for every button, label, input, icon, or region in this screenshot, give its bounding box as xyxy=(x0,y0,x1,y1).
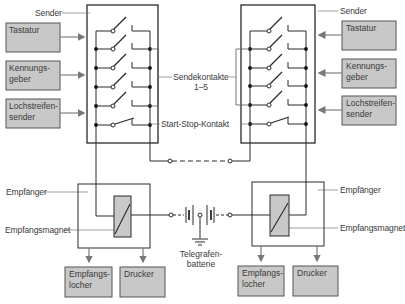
label-sender-right: Sender xyxy=(340,6,367,16)
open-switch-icon xyxy=(267,122,271,126)
input-label-lochstreifensender-left: Lochstreifen- sender xyxy=(9,101,58,123)
output-label-empfangslocher-left: Empfangs- locher xyxy=(69,269,110,291)
input-label-kennungsgeber-right: Kennungs- geber xyxy=(346,61,387,83)
start-stop-switch xyxy=(248,117,308,126)
open-switch-icon xyxy=(111,123,115,127)
output-label-drucker-right: Drucker xyxy=(297,268,327,279)
open-switch-icon xyxy=(111,29,115,33)
switch-row xyxy=(248,72,308,88)
open-switch-icon xyxy=(111,66,115,70)
label-telegrafenbatterie: Telegrafen- batterie xyxy=(178,249,224,269)
label-empfaenger-left: Empfänger xyxy=(6,187,47,197)
right-receiver xyxy=(232,182,324,246)
sender-box-left xyxy=(87,5,158,143)
switch-row xyxy=(248,35,308,51)
switch-row xyxy=(94,54,152,70)
label-start-stop-kontakt: Start-Stop-Kontakt xyxy=(161,119,229,129)
switch-row xyxy=(94,73,152,89)
open-switch-icon xyxy=(111,104,115,108)
label-empfangsmagnet-right: Empfangsmagnet xyxy=(340,223,405,233)
label-empfangsmagnet-left: Empfangsmagnet xyxy=(5,225,70,235)
label-sender-left: Sender xyxy=(35,8,62,18)
left-receiver xyxy=(78,184,169,248)
right-sender xyxy=(236,5,315,210)
open-switch-icon xyxy=(267,103,271,107)
left-sender xyxy=(87,5,158,210)
open-switch-icon xyxy=(267,47,271,51)
line-connection xyxy=(150,159,250,163)
open-switch-icon xyxy=(267,84,271,88)
input-label-tastatur-left: Tastatur xyxy=(9,25,39,36)
label-sendekontakte-range: 1–5 xyxy=(173,82,229,92)
open-switch-icon xyxy=(267,66,271,70)
sender-box-right xyxy=(241,5,315,143)
battery-icon xyxy=(169,205,232,238)
input-label-tastatur-right: Tastatur xyxy=(346,23,376,34)
input-label-lochstreifensender-right: Lochstreifen- sender xyxy=(346,98,395,120)
switch-row xyxy=(94,35,152,51)
switch-row xyxy=(248,91,308,107)
open-switch-icon xyxy=(111,85,115,89)
switch-row xyxy=(248,54,308,70)
output-label-drucker-left: Drucker xyxy=(124,269,154,280)
open-switch-icon xyxy=(267,29,271,33)
open-switch-icon xyxy=(111,47,115,51)
start-stop-switch xyxy=(94,118,152,127)
input-label-kennungsgeber-left: Kennungs- geber xyxy=(9,63,50,85)
label-empfaenger-right: Empfänger xyxy=(340,185,381,195)
label-sendekontakte: Sendekontakte xyxy=(173,72,229,82)
output-label-empfangslocher-right: Empfangs- locher xyxy=(242,268,283,290)
switch-row xyxy=(94,92,152,108)
ground-icon xyxy=(192,239,208,245)
